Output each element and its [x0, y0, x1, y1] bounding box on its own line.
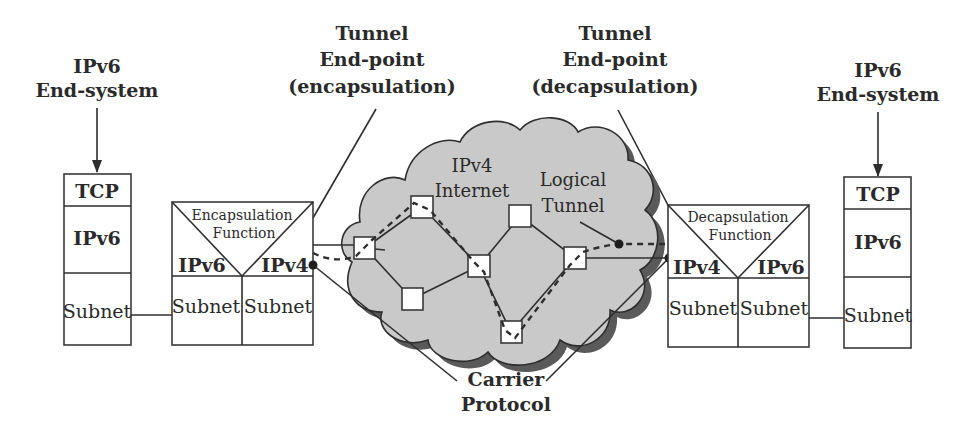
left-layer-subnet: Subnet: [63, 300, 132, 322]
carrier-protocol-label: Carrier Protocol: [461, 368, 551, 415]
cloud-label-2: Internet: [435, 180, 510, 201]
decap-endpoint-label: Tunnel End-point (decapsulation): [531, 22, 698, 97]
right-layer-ipv6: IPv6: [854, 231, 901, 253]
encapsulation-box: Encapsulation Function IPv6 IPv4 Subnet …: [172, 202, 313, 345]
router-icon: [509, 205, 531, 227]
decap-ipv6-label: IPv6: [757, 256, 804, 278]
svg-text:(decapsulation): (decapsulation): [531, 75, 698, 97]
svg-text:End-point: End-point: [319, 48, 424, 70]
svg-text:(encapsulation): (encapsulation): [288, 75, 456, 97]
decapsulation-box: Decapsulation Function IPv4 IPv6 Subnet …: [668, 205, 809, 347]
decap-left-subnet: Subnet: [669, 297, 738, 319]
logical-tunnel-dot: [615, 240, 624, 249]
encap-endpoint-label: Tunnel End-point (encapsulation): [288, 22, 456, 97]
svg-text:End-point: End-point: [562, 48, 667, 70]
right-end-system-label-1: IPv6: [854, 59, 901, 81]
left-layer-ipv6: IPv6: [73, 227, 120, 249]
svg-text:Tunnel: Tunnel: [578, 22, 651, 44]
router-icon: [411, 196, 433, 218]
svg-text:Carrier: Carrier: [468, 368, 546, 390]
encap-function-label-1: Encapsulation: [192, 207, 293, 223]
decap-right-subnet: Subnet: [740, 297, 809, 319]
right-layer-subnet: Subnet: [844, 304, 913, 326]
ipv6-tunneling-diagram: IPv6 End-system TCP IPv6 Subnet Tunnel E…: [0, 0, 977, 447]
svg-text:Tunnel: Tunnel: [335, 22, 408, 44]
arrowhead-icon: [92, 160, 102, 173]
encap-left-subnet: Subnet: [172, 295, 241, 317]
encap-ipv6-label: IPv6: [178, 254, 225, 276]
left-end-system-label-1: IPv6: [73, 55, 120, 77]
encap-ipv4-label: IPv4: [261, 254, 308, 276]
decap-function-label-2: Function: [708, 227, 771, 243]
router-icon: [402, 288, 423, 310]
logical-tunnel-label-1: Logical: [540, 169, 607, 190]
right-end-system-label-2: End-system: [817, 83, 940, 105]
decap-function-label-1: Decapsulation: [687, 209, 788, 225]
left-layer-tcp: TCP: [75, 180, 119, 202]
left-end-system-label-2: End-system: [36, 79, 159, 101]
right-end-system: IPv6 End-system TCP IPv6 Subnet: [817, 59, 940, 348]
encap-ipv4-dot: [309, 261, 318, 270]
decap-ipv4-label: IPv4: [673, 256, 720, 278]
arrowhead-icon: [873, 164, 883, 177]
encap-function-label-2: Function: [212, 225, 275, 241]
cloud-label-1: IPv4: [452, 155, 493, 176]
logical-tunnel-label-2: Tunnel: [541, 195, 604, 216]
encap-right-subnet: Subnet: [244, 295, 313, 317]
router-icon: [564, 247, 586, 269]
svg-text:Protocol: Protocol: [461, 393, 551, 415]
left-end-system: IPv6 End-system TCP IPv6 Subnet: [36, 55, 159, 345]
right-layer-tcp: TCP: [856, 183, 900, 205]
